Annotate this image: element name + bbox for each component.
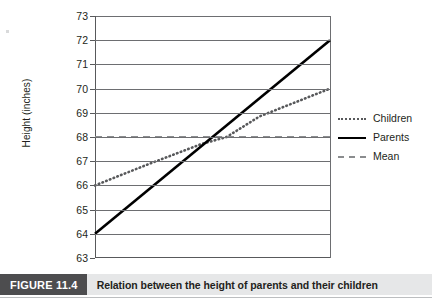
figure-caption-text: Relation between the height of parents a…	[97, 279, 378, 291]
y-tick-label: 67	[62, 156, 88, 167]
y-tick-label: 69	[62, 108, 88, 119]
y-axis-title: Height (inches)	[21, 63, 35, 163]
caption-underline	[0, 297, 432, 298]
y-tick-label: 63	[62, 253, 88, 264]
legend-label-children: Children	[367, 112, 412, 124]
y-tick-label: 68	[62, 132, 88, 143]
y-tick-label: 73	[62, 11, 88, 22]
legend-label-mean: Mean	[367, 150, 399, 162]
figure-caption-wrap: Relation between the height of parents a…	[87, 274, 432, 295]
legend-item-children: Children	[337, 108, 432, 127]
y-axis-tick-labels: 7372717069686766656463	[62, 0, 88, 270]
y-tick-mark	[90, 258, 95, 259]
figure-caption-bar: FIGURE 11.4 Relation between the height …	[0, 274, 432, 295]
gridline	[95, 40, 330, 41]
dotted-line-marker	[337, 113, 367, 123]
solid-line-marker	[337, 132, 367, 142]
gridline	[95, 161, 330, 162]
y-tick-label: 72	[62, 35, 88, 46]
figure-number-tag: FIGURE 11.4	[0, 274, 87, 295]
chart-legend: Children Parents Mean	[337, 108, 432, 165]
gridline	[95, 185, 330, 186]
legend-item-mean: Mean	[337, 146, 432, 165]
gridline	[95, 64, 330, 65]
gridline	[95, 234, 330, 235]
y-tick-label: 70	[62, 83, 88, 94]
y-tick-label: 65	[62, 204, 88, 215]
legend-label-parents: Parents	[367, 131, 409, 143]
dashed-line-marker	[337, 151, 367, 161]
chart-region: Height (inches) 7372717069686766656463 C…	[0, 0, 432, 270]
y-tick-label: 66	[62, 180, 88, 191]
figure-container: Height (inches) 7372717069686766656463 C…	[0, 0, 432, 301]
y-tick-label: 71	[62, 59, 88, 70]
gridline	[95, 89, 330, 90]
y-tick-mark	[90, 16, 95, 17]
gridline	[95, 137, 330, 138]
gridline	[95, 113, 330, 114]
gridline	[95, 210, 330, 211]
y-tick-label: 64	[62, 229, 88, 240]
legend-item-parents: Parents	[337, 127, 432, 146]
